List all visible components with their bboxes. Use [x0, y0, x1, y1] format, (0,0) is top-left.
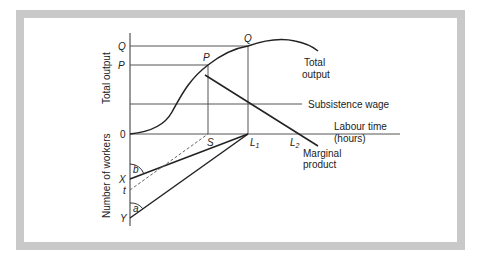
number-of-workers-axis-title: Number of workers — [101, 134, 112, 218]
angle-a-label: a — [133, 203, 139, 214]
subsistence-wage-label: Subsistence wage — [308, 99, 390, 110]
tick-y: Y — [120, 213, 128, 224]
angle-b-label: b — [133, 164, 139, 175]
economics-diagram: Q P 0 X t Y Total output Number of worke… — [0, 0, 479, 260]
tick-q: Q — [118, 41, 126, 52]
tick-t: t — [123, 185, 127, 196]
total-output-axis-title: Total output — [101, 52, 112, 104]
tick-l2: L2 — [290, 137, 300, 149]
marginal-product-label-line2: product — [303, 159, 337, 170]
x-to-l1-line — [130, 134, 248, 179]
t-to-s-dashed-line — [130, 134, 208, 190]
labour-time-unit-label: (hours) — [334, 133, 366, 144]
tick-p: P — [118, 60, 125, 71]
y-to-l1-line — [130, 134, 248, 218]
tick-s: S — [207, 137, 214, 148]
tick-l1: L1 — [250, 137, 260, 149]
marginal-product-label-line1: Marginal — [303, 148, 341, 159]
marginal-product-line — [205, 75, 318, 146]
labour-time-label: Labour time — [334, 121, 387, 132]
point-p-label: P — [203, 52, 210, 63]
total-output-label-line2: output — [302, 69, 330, 80]
tick-x: X — [118, 174, 126, 185]
origin-label: 0 — [120, 129, 126, 140]
total-output-label-line1: Total — [304, 57, 325, 68]
point-q-label: Q — [244, 33, 252, 44]
